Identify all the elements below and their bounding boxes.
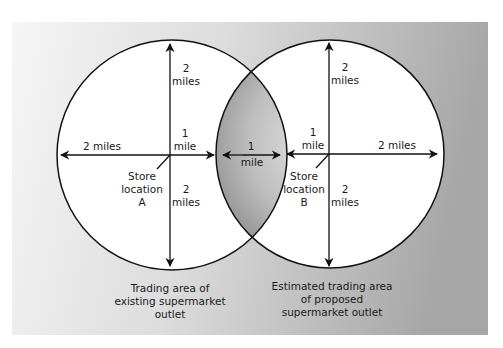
caption-b-line2: of proposed <box>301 293 363 305</box>
b-left-value: 1 <box>310 126 317 138</box>
a-up-unit: miles <box>172 75 200 87</box>
a-right-unit: mile <box>174 140 197 152</box>
a-up-value: 2 <box>183 62 190 74</box>
a-down-value: 2 <box>183 183 190 195</box>
caption-a-line2: existing supermarket <box>114 295 225 307</box>
caption-a-line3: outlet <box>155 308 186 320</box>
b-up-value: 2 <box>342 61 349 73</box>
b-up-unit: miles <box>331 74 359 86</box>
b-down-value: 2 <box>342 183 349 195</box>
a-left-label: 2 miles <box>83 140 121 152</box>
b-right-label: 2 miles <box>378 139 416 151</box>
a-right-value: 1 <box>182 127 189 139</box>
store-a-label-line2: location <box>121 183 163 195</box>
caption-a-line1: Trading area of <box>130 282 210 294</box>
overlap-value: 1 <box>248 140 255 152</box>
trading-area-diagram: 2 miles 2 miles 1 mile 2 miles Store loc… <box>0 0 503 348</box>
b-down-unit: miles <box>331 196 359 208</box>
b-left-unit: mile <box>302 139 325 151</box>
store-a-label-line1: Store <box>128 170 156 182</box>
a-down-unit: miles <box>172 196 200 208</box>
store-b-label-line2: location <box>283 183 325 195</box>
overlap-unit: mile <box>241 156 264 168</box>
store-b-label-line3: B <box>300 196 307 208</box>
caption-b-line1: Estimated trading area <box>272 280 393 292</box>
store-b-label-line1: Store <box>290 170 318 182</box>
caption-b-line3: supermarket outlet <box>282 306 383 318</box>
store-a-label-line3: A <box>138 196 146 208</box>
